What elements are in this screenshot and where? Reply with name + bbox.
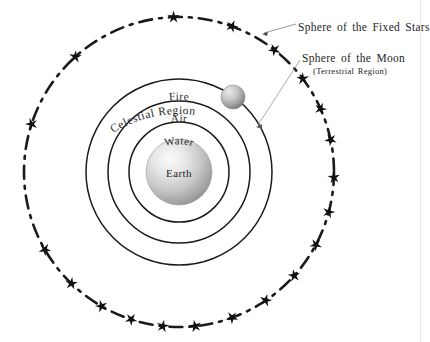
fire-label: Fire [169,90,190,102]
fixed-star [309,239,322,251]
leader-line-fixed-stars [262,24,296,36]
leader-line-moon [256,60,300,129]
terrestrial-region-annotation: (Terrestrial Region) [313,66,387,76]
fire-label-textpath: Fire [169,90,190,102]
leader-fixed-stars-line [264,24,296,33]
water-label: Water [163,134,195,148]
fixed-star [39,244,52,256]
leader-moon-line [258,60,300,125]
fixed-stars-annotation: Sphere of the Fixed Stars [298,21,430,33]
fixed-star [95,300,107,313]
moon-globe [221,85,245,109]
fixed-star [226,20,238,33]
fixed-star [260,294,272,307]
earth-label: Earth [166,167,192,179]
water-label-textpath: Water [163,134,195,148]
page-scan-edge [420,0,421,342]
moon-annotation: Sphere of the Moon [302,52,405,64]
fixed-star [125,314,138,326]
fixed-star [268,44,280,56]
